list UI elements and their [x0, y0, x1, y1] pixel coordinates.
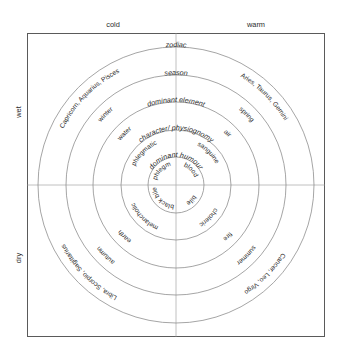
label-melancholic-season: autumn — [94, 245, 115, 266]
temperaments-wheel: dominant humour character/ physiognomy d… — [0, 0, 340, 351]
label-choleric-humour: bile — [185, 194, 198, 207]
axis-label-cold: cold — [106, 20, 120, 29]
label-melancholic-character: melancholic — [129, 201, 159, 232]
ring-title-zodiac: zodiac — [164, 40, 187, 49]
label-choleric-zodiac: Cancer, Leo, Virgo — [243, 252, 287, 296]
label-sanguine-element: air — [223, 128, 234, 139]
label-sanguine-season: spring — [238, 105, 256, 124]
label-choleric-character: choleric — [198, 207, 220, 229]
axis-label-wet: wet — [14, 106, 23, 119]
label-melancholic-humour: black bile — [150, 186, 174, 211]
axis-label-dry: dry — [14, 253, 23, 264]
label-melancholic-element: earth — [116, 229, 132, 245]
label-choleric-element: fire — [222, 231, 234, 243]
label-phlegmatic-zodiac: Capricorn, Aquarius, Pisces — [58, 67, 121, 130]
axis-label-warm: warm — [246, 20, 265, 29]
label-choleric-season: summer — [235, 245, 258, 268]
ring-title-dominant-element: dominant element — [146, 95, 207, 109]
label-phlegmatic-element: water — [115, 124, 133, 142]
